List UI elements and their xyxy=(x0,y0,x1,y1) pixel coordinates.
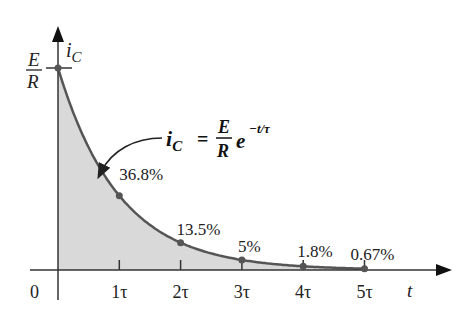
point-label: 0.67% xyxy=(351,245,395,264)
svg-text:=: = xyxy=(197,128,208,150)
data-point xyxy=(177,239,184,246)
x-axis-label: t xyxy=(407,280,413,301)
x-tick-label: 3τ xyxy=(234,282,250,302)
data-point xyxy=(55,65,62,72)
svg-text:iC: iC xyxy=(166,126,183,154)
data-point xyxy=(361,265,368,272)
svg-text:e: e xyxy=(236,129,245,153)
svg-text:−t/τ: −t/τ xyxy=(249,121,271,136)
y-axis-arrow-icon xyxy=(52,26,64,42)
x-axis-arrow-icon xyxy=(436,264,452,276)
data-point xyxy=(238,256,245,263)
x-tick-label: 4τ xyxy=(295,282,311,302)
origin-label: 0 xyxy=(30,282,39,302)
y-max-numerator: E xyxy=(27,49,40,70)
x-tick-label: 5τ xyxy=(356,282,372,302)
svg-text:R: R xyxy=(216,141,229,161)
x-tick-labels: 1τ2τ3τ4τ5τ xyxy=(111,282,372,302)
y-axis-label: iC xyxy=(66,39,83,65)
area-fill xyxy=(58,68,365,270)
x-tick-label: 1τ xyxy=(111,282,127,302)
equation: iC = E R e −t/τ xyxy=(166,117,271,161)
point-label: 1.8% xyxy=(297,242,332,261)
point-label: 5% xyxy=(238,237,261,256)
x-tick-label: 2τ xyxy=(172,282,188,302)
y-max-denominator: R xyxy=(26,71,39,92)
point-label: 36.8% xyxy=(119,165,163,184)
data-point xyxy=(300,263,307,270)
svg-text:E: E xyxy=(217,117,230,137)
point-label: 13.5% xyxy=(177,220,221,239)
data-point xyxy=(116,192,123,199)
capacitor-current-decay-chart: 1τ2τ3τ4τ5τ 36.8%13.5%5%1.8%0.67% 0 t iC … xyxy=(0,0,470,331)
